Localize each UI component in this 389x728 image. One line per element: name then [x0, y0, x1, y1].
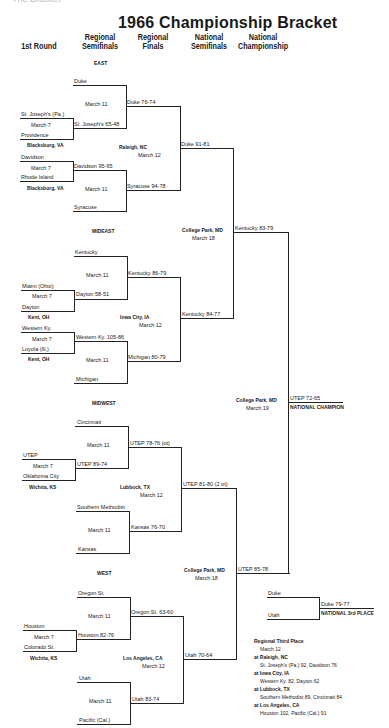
- bracket-connector: [127, 341, 128, 384]
- game-site: Blacksburg, VA: [27, 185, 64, 191]
- game-date: March 7: [33, 463, 53, 469]
- bracket-line: [75, 426, 129, 427]
- bracket-line: [22, 459, 76, 460]
- bracket-line: [127, 361, 181, 362]
- team-slot: Kansas 76-70: [131, 524, 165, 530]
- bracket-line: [267, 619, 320, 620]
- team-slot: Cincinnati: [77, 419, 101, 425]
- bracket-line: [21, 311, 75, 312]
- game-date: March 12: [140, 492, 163, 498]
- game-date: March 11: [85, 101, 108, 107]
- team-slot: Utah 83-74: [132, 696, 159, 702]
- team-slot: Michigan 80-79: [128, 354, 166, 360]
- bracket-connector: [74, 290, 75, 312]
- column-header-regional-finals: RegionalFinals: [128, 33, 179, 51]
- team-slot: Davidson: [21, 154, 44, 160]
- team-slot: Kentucky: [75, 249, 98, 255]
- bracket-line: [23, 651, 77, 652]
- bracket-line: [74, 341, 128, 342]
- game-date: March 11: [88, 613, 111, 619]
- bracket-line: [20, 118, 74, 119]
- team-slot: UTEP 78-76 (ot): [130, 440, 170, 446]
- bracket-line: [233, 232, 288, 233]
- bracket-line: [74, 256, 128, 257]
- notes-site: at Raleigh, NC: [254, 653, 342, 661]
- bracket-connector: [74, 332, 75, 354]
- team-slot: Utah: [79, 675, 91, 681]
- region-label-mideast: MIDEAST: [92, 228, 115, 234]
- bracket-line: [21, 353, 75, 354]
- bracket-line: [129, 531, 182, 532]
- region-label-west: WEST: [97, 570, 111, 576]
- game-date: March 12: [139, 322, 162, 328]
- bracket-line: [183, 659, 237, 660]
- bracket-line: [236, 573, 290, 574]
- bracket-line: [180, 148, 234, 149]
- game-date: March 12: [138, 152, 161, 158]
- team-slot: St. Joseph's (Pa.): [21, 111, 64, 117]
- column-header-national-championship: NationalChampionship: [233, 33, 293, 51]
- third-place-label: NATIONAL 3rd PLACE: [321, 610, 374, 616]
- bracket-line: [22, 480, 76, 481]
- bracket-line: [128, 447, 182, 448]
- game-site: Kent, OH: [28, 356, 49, 362]
- third-place-result: Duke 79-77: [321, 601, 349, 607]
- notes-result: Southern Methodist 89, Cincinnati 84: [254, 693, 342, 701]
- regional-third-place-notes: Regional Third Place March 12 at Raleigh…: [254, 637, 342, 717]
- game-date: March 12: [142, 663, 165, 669]
- bracket-connector: [130, 597, 131, 640]
- notes-result: Western Ky. 82, Dayton 62: [254, 677, 342, 685]
- notes-date: March 12: [254, 645, 342, 653]
- team-slot: Providence: [21, 132, 49, 138]
- bracket-line: [73, 85, 127, 86]
- team-slot: Oklahoma City: [23, 473, 59, 479]
- game-date: March 11: [88, 527, 111, 533]
- team-slot: Miami (Ohio): [22, 283, 53, 289]
- team-slot: Loyola (Ill.): [22, 346, 49, 352]
- bracket-line: [130, 616, 184, 617]
- notes-site: at Los Angeles, CA: [254, 701, 342, 709]
- bracket-line: [180, 318, 234, 319]
- team-slot: Kentucky 83-79: [235, 225, 273, 231]
- bracket-line: [127, 277, 181, 278]
- game-date: March 7: [32, 336, 52, 342]
- team-slot: Utah: [268, 612, 280, 618]
- bracket-line: [73, 170, 127, 171]
- bracket-connector: [181, 447, 182, 532]
- column-header-first-round: 1st Round: [18, 42, 61, 51]
- team-slot: Western Ky. 105-86: [76, 334, 124, 340]
- team-slot: Dayton: [22, 304, 39, 310]
- game-date: March 7: [34, 634, 54, 640]
- team-slot: Dayton 58-51: [76, 291, 109, 297]
- bracket-line: [20, 161, 74, 162]
- game-date: March 18: [195, 575, 218, 581]
- game-date: March 11: [86, 357, 109, 363]
- bracket-line: [74, 299, 128, 300]
- team-slot: Kansas: [78, 546, 96, 552]
- bracket-line: [75, 468, 129, 469]
- bracket-line: [126, 106, 180, 107]
- team-slot: UTEP 81-80 (2 ot): [183, 481, 228, 487]
- champion-result: UTEP 72-65: [290, 395, 320, 401]
- bracket-connector: [180, 277, 181, 362]
- team-slot: Oregon St.: [78, 590, 105, 596]
- team-slot: Houston 82-76: [78, 632, 114, 638]
- bracket-line: [267, 597, 320, 598]
- game-date: March 7: [31, 165, 51, 171]
- team-slot: Michigan: [76, 376, 98, 382]
- game-site: Iowa City, IA: [120, 314, 149, 320]
- bracket-line: [76, 511, 130, 512]
- team-slot: Davidson 95-65: [74, 163, 113, 169]
- game-site: Los Angeles, CA: [123, 655, 163, 661]
- bracket-line: [73, 128, 127, 129]
- game-date: March 11: [85, 186, 108, 192]
- team-slot: Utah 70-64: [185, 652, 212, 658]
- team-slot: Southern Methodist: [77, 504, 125, 510]
- game-date: March 7: [31, 122, 51, 128]
- notes-result: St. Joseph's (Pa.) 92, Davidson 76: [254, 661, 342, 669]
- team-slot: Duke 76-74: [127, 99, 155, 105]
- bracket-line: [76, 553, 130, 554]
- bracket-line: [319, 608, 374, 609]
- game-site: College Park, MD: [184, 567, 225, 573]
- bracket-line: [77, 639, 131, 640]
